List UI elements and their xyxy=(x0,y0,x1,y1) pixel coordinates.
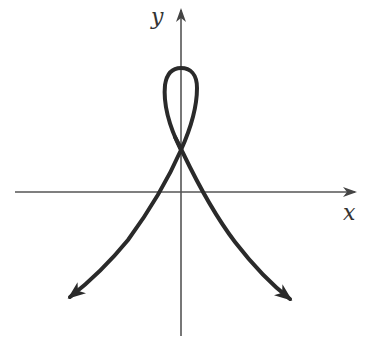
curve-left-branch xyxy=(70,68,197,297)
diagram-canvas xyxy=(0,0,369,347)
y-axis-label: y xyxy=(151,6,163,28)
curve-right-branch xyxy=(175,137,290,299)
x-axis-label: x xyxy=(343,202,355,224)
curve-diagram: y x xyxy=(0,0,369,347)
